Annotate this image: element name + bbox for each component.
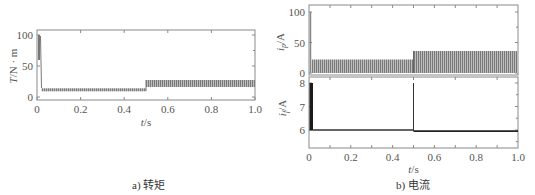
xlabel-torque: t/s [141,116,151,128]
ylabel-ip: ip/A [274,33,288,51]
xtick-0.8: 0.8 [205,103,219,115]
torque-startup-spike [38,35,40,60]
xtick-0.8: 0.8 [469,151,483,163]
ylabel-torque: T/N · m [7,48,19,83]
torque-band-low [42,88,147,91]
if-startup-pulse [310,83,314,131]
xtick-0.6: 0.6 [428,151,442,163]
ytick-50: 50 [294,37,306,49]
ytick-8: 8 [300,77,306,89]
xtick-1.0: 1.0 [248,103,262,115]
ytick-50: 50 [22,60,34,72]
xtick-0.4: 0.4 [386,151,400,163]
caption-a: a) 转矩 [132,176,165,192]
ytick-6: 6 [300,124,306,136]
ip-band-low [312,60,414,74]
xlabel-current: t/s [408,163,418,175]
xtick-0.2: 0.2 [74,103,88,115]
chart-current-if: 8 7 6 if/A 0 0.2 0.4 0.6 0.8 1.0 t/s [276,77,525,175]
xtick-0.4: 0.4 [117,103,131,115]
ytick-100: 100 [289,6,306,18]
ytick-0: 0 [28,91,34,103]
ytick-7: 7 [300,101,306,113]
xtick-1.0: 1.0 [511,151,525,163]
figure-canvas: 100 50 0 0 0.2 0.4 0.6 0.8 1.0 t/s T/N ·… [0,0,535,195]
ytick-100: 100 [17,29,34,41]
xtick-0: 0 [34,103,40,115]
ip-band-high [414,51,519,73]
xtick-0.6: 0.6 [161,103,175,115]
torque-band-high [146,80,255,87]
chart-current-ip: 100 50 0 ip/A [274,5,518,79]
ylabel-if: if/A [276,100,290,116]
xtick-0.2: 0.2 [344,151,358,163]
chart-torque: 100 50 0 0 0.2 0.4 0.6 0.8 1.0 t/s T/N ·… [7,29,262,128]
xtick-0: 0 [306,151,312,163]
caption-b: b) 电流 [396,176,430,192]
